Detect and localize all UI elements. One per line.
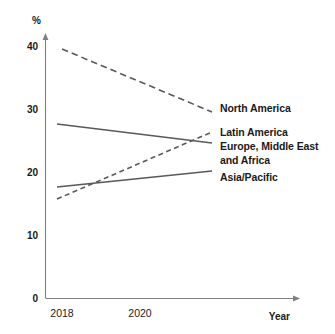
chart-canvas: % 40 30 20 10 0 2018 2020 Year North Ame…: [0, 0, 335, 334]
y-axis-unit-label: %: [32, 15, 41, 26]
y-tick-label-10: 10: [27, 230, 39, 241]
y-axis-arrowhead: [43, 33, 49, 40]
y-tick-label-0: 0: [32, 293, 38, 304]
series-label-emea-line1: Europe, Middle East: [220, 140, 319, 152]
y-tick-label-30: 30: [27, 104, 39, 115]
series-label-north-america: North America: [220, 102, 291, 114]
x-tick-label-2018: 2018: [50, 307, 74, 319]
series-line-latin-america: [57, 132, 212, 199]
y-tick-label-40: 40: [27, 41, 39, 52]
series-label-emea-line2: and Africa: [220, 154, 270, 166]
y-tick-label-20: 20: [27, 167, 39, 178]
series-label-latin-america: Latin America: [220, 126, 288, 138]
series-label-asia-pacific: Asia/Pacific: [220, 171, 278, 183]
x-axis-title: Year: [269, 311, 290, 322]
x-axis: [46, 296, 301, 302]
y-axis: [43, 33, 49, 298]
series-line-north-america: [62, 49, 212, 112]
series-line-emea: [57, 124, 212, 143]
x-axis-arrowhead: [293, 296, 300, 302]
x-tick-label-2020: 2020: [128, 307, 152, 319]
series-line-asia-pacific: [57, 171, 212, 187]
line-chart: % 40 30 20 10 0 2018 2020 Year North Ame…: [0, 0, 335, 334]
